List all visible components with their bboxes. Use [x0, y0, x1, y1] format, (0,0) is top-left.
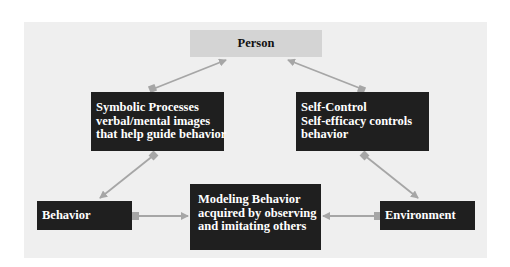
- node-description: verbal/mental images: [96, 115, 224, 129]
- arrow-symbolic-to-person: [153, 60, 226, 89]
- node-environment: Environment: [380, 201, 475, 230]
- node-description: Self-efficacy controls: [301, 115, 429, 129]
- square-tail-icon: [132, 212, 139, 220]
- node-label: Environment: [385, 209, 475, 223]
- node-self-control: Self-Control Self-efficacy controls beha…: [296, 92, 429, 151]
- node-label: Behavior: [42, 209, 132, 223]
- arrow-symbolic-to-behavior: [100, 155, 154, 198]
- node-description: that help guide behavior: [96, 128, 224, 142]
- arrow-selfcontrol-to-environment: [364, 155, 418, 198]
- node-description: and imitating others: [198, 220, 321, 234]
- node-person: Person: [190, 30, 322, 57]
- node-title: Self-Control: [301, 101, 429, 115]
- node-title: Modeling Behavior: [198, 193, 321, 207]
- node-modeling-behavior: Modeling Behavior acquired by observing …: [190, 184, 321, 250]
- node-symbolic-processes: Symbolic Processes verbal/mental images …: [91, 92, 224, 151]
- node-title: Symbolic Processes: [96, 101, 224, 115]
- node-description: acquired by observing: [198, 207, 321, 221]
- node-label: Person: [238, 37, 275, 51]
- arrow-selfcontrol-to-person: [288, 60, 362, 89]
- node-description: behavior: [301, 128, 429, 142]
- node-behavior: Behavior: [37, 201, 132, 230]
